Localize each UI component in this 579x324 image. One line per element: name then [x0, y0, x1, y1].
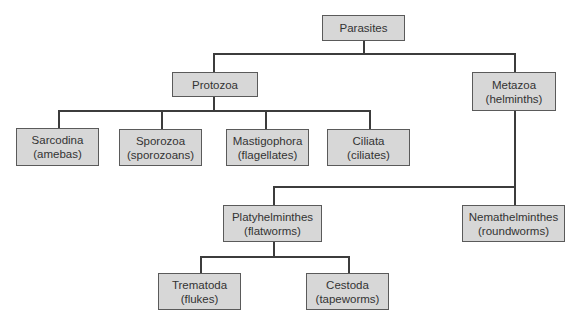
- connector: [514, 111, 516, 205]
- node-label: Mastigophora: [233, 134, 303, 148]
- node-metazoa: Metazoa (helminths): [472, 72, 556, 111]
- node-label: Protozoa: [192, 78, 238, 92]
- node-sarcodina: Sarcodina (amebas): [16, 128, 99, 166]
- node-label: Ciliata: [353, 134, 385, 148]
- node-sublabel: (flatworms): [244, 224, 301, 238]
- node-parasites: Parasites: [322, 15, 405, 41]
- connector: [265, 110, 267, 129]
- parasite-classification-diagram: Parasites Protozoa Metazoa (helminths) S…: [0, 0, 579, 324]
- node-sublabel: (flukes): [181, 292, 219, 306]
- connector: [369, 110, 371, 129]
- node-sublabel: (amebas): [33, 147, 82, 161]
- node-sublabel: (helminths): [486, 92, 543, 106]
- node-sublabel: (sporozoans): [127, 148, 194, 162]
- node-platyhelminthes: Platyhelminthes (flatworms): [223, 205, 322, 242]
- node-sublabel: (flagellates): [238, 148, 297, 162]
- connector: [514, 53, 516, 72]
- connector: [213, 53, 515, 55]
- node-sublabel: (tapeworms): [316, 292, 380, 306]
- connector: [161, 110, 163, 129]
- node-label: Parasites: [340, 21, 388, 35]
- connector: [273, 186, 515, 188]
- node-label: Platyhelminthes: [232, 210, 313, 224]
- connector: [213, 97, 215, 111]
- node-label: Sporozoa: [136, 134, 185, 148]
- connector: [348, 256, 350, 273]
- node-sublabel: (roundworms): [478, 224, 549, 238]
- node-cestoda: Cestoda (tapeworms): [306, 273, 389, 310]
- node-nemathelminthes: Nemathelminthes (roundworms): [462, 205, 565, 242]
- connector: [200, 256, 202, 273]
- node-label: Sarcodina: [32, 133, 84, 147]
- node-ciliata: Ciliata (ciliates): [327, 129, 410, 166]
- node-sporozoa: Sporozoa (sporozoans): [119, 129, 202, 166]
- node-label: Nemathelminthes: [469, 210, 558, 224]
- node-label: Cestoda: [326, 278, 369, 292]
- connector: [58, 110, 60, 128]
- connector: [58, 110, 370, 112]
- node-label: Metazoa: [492, 78, 536, 92]
- connector: [273, 186, 275, 205]
- connector: [273, 242, 275, 257]
- node-trematoda: Trematoda (flukes): [158, 273, 241, 310]
- connector: [213, 53, 215, 72]
- connector: [200, 256, 349, 258]
- node-protozoa: Protozoa: [172, 72, 258, 97]
- node-mastigophora: Mastigophora (flagellates): [226, 129, 309, 166]
- node-sublabel: (ciliates): [347, 148, 390, 162]
- node-label: Trematoda: [172, 278, 227, 292]
